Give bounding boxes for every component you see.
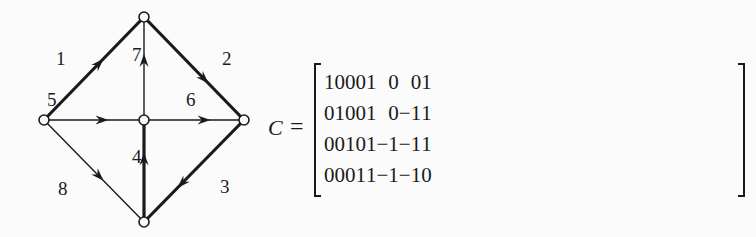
- matrix-cell: 0: [356, 67, 367, 98]
- edge-label: 1: [56, 48, 66, 69]
- matrix-cell: 1: [366, 160, 377, 191]
- matrix-cell: −1: [377, 160, 399, 191]
- matrix-cell: −1: [377, 129, 399, 160]
- edge-label: 6: [186, 89, 196, 110]
- matrix: 10001001010010−1100101−1−1100011−1−10: [324, 67, 432, 191]
- matrix-cell: 0: [399, 67, 421, 98]
- matrix-cell: 0: [377, 67, 399, 98]
- node-center: [139, 115, 149, 125]
- directed-graph: 12345678: [0, 0, 270, 237]
- matrix-cell: 1: [421, 129, 432, 160]
- matrix-cell: −1: [399, 160, 421, 191]
- right-bracket: [738, 63, 745, 197]
- edge-label: 2: [222, 48, 232, 69]
- matrix-cell: 0: [345, 67, 356, 98]
- matrix-row: 010010−11: [324, 98, 432, 129]
- edge-label: 8: [58, 178, 68, 199]
- matrix-cell: −1: [399, 98, 421, 129]
- matrix-cell: 0: [324, 98, 335, 129]
- matrix-cell: 0: [356, 129, 367, 160]
- matrix-cell: 0: [324, 129, 335, 160]
- matrix-cell: 1: [356, 160, 367, 191]
- matrix-cell: 1: [421, 67, 432, 98]
- node-left: [39, 115, 49, 125]
- matrix-cell: 1: [366, 67, 377, 98]
- matrix-cell: 1: [335, 98, 346, 129]
- matrix-row: 10001001: [324, 67, 432, 98]
- left-bracket: [314, 63, 321, 197]
- matrix-cell: 0: [345, 160, 356, 191]
- matrix-cell: 0: [421, 160, 432, 191]
- edge-8: [44, 120, 144, 222]
- node-bottom: [139, 217, 149, 227]
- matrix-cell: −1: [399, 129, 421, 160]
- edge-1: [44, 17, 144, 120]
- matrix-cell: 1: [366, 98, 377, 129]
- matrix-cell: 1: [366, 129, 377, 160]
- matrix-cell: 0: [345, 98, 356, 129]
- matrix-cell: 1: [324, 67, 335, 98]
- edge-label: 3: [220, 176, 230, 197]
- matrix-cell: 0: [356, 98, 367, 129]
- matrix-row: 00101−1−11: [324, 129, 432, 160]
- node-top: [139, 12, 149, 22]
- edge-label: 4: [132, 146, 142, 167]
- node-right: [239, 115, 249, 125]
- edge-label: 7: [132, 44, 142, 65]
- matrix-symbol: C: [268, 115, 283, 141]
- matrix-cell: 0: [324, 160, 335, 191]
- matrix-cell: 1: [345, 129, 356, 160]
- equals-sign: =: [290, 113, 304, 140]
- matrix-cell: 0: [335, 67, 346, 98]
- matrix-cell: 0: [335, 160, 346, 191]
- matrix-cell: 0: [377, 98, 399, 129]
- matrix-row: 00011−1−10: [324, 160, 432, 191]
- edge-label: 5: [47, 89, 57, 110]
- matrix-cell: 1: [421, 98, 432, 129]
- matrix-cell: 0: [335, 129, 346, 160]
- edge-3: [144, 120, 244, 222]
